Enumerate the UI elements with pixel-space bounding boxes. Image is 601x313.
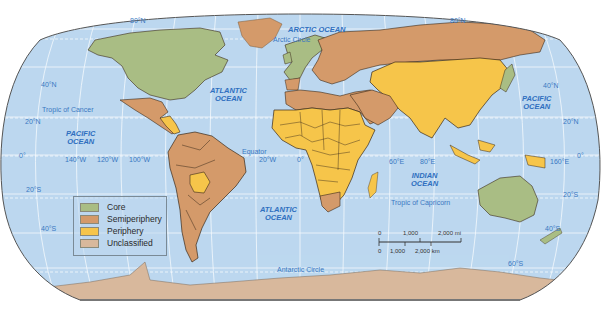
scale-ruler — [375, 238, 485, 246]
lat-0-left: 0° — [19, 152, 26, 159]
atlantic-ocean-north-label: ATLANTICOCEAN — [210, 87, 247, 103]
core-swatch — [80, 203, 99, 212]
scale-mi-end: 2,000 mi — [438, 230, 461, 236]
lat-40n-left: 40°N — [41, 81, 57, 88]
arctic-circle-label: Arctic Circle — [273, 36, 310, 43]
atlantic-ocean-south-label: ATLANTICOCEAN — [260, 206, 297, 222]
lat-80n-left: 80°N — [130, 17, 146, 24]
map-legend: Core Semiperiphery Periphery Unclassifie… — [73, 196, 167, 256]
scale-bar: 0 1,000 2,000 mi 0 1,000 2,000 km — [375, 227, 485, 257]
lat-40s-right: 40°S — [545, 225, 560, 232]
lat-20s-left: 20°S — [26, 186, 41, 193]
semiperiphery-swatch — [80, 215, 99, 224]
scale-km-end: 2,000 km — [415, 248, 440, 254]
lat-80n-right: 80°N — [450, 17, 466, 24]
tropic-capricorn-label: Tropic of Capricorn — [391, 199, 450, 206]
scale-mi-mid: 1,000 — [403, 230, 418, 236]
iberia — [285, 78, 300, 90]
equator-label: Equator — [242, 148, 267, 155]
ocean-line2: OCEAN — [411, 180, 438, 188]
arctic-ocean-text: ARCTIC OCEAN — [288, 25, 346, 34]
legend-item-periphery: Periphery — [80, 226, 143, 236]
lon-100w: 100°W — [129, 156, 150, 163]
lat-20n-right: 20°N — [563, 118, 579, 125]
lon-20w: 20°W — [259, 156, 276, 163]
lon-0: 0° — [297, 156, 304, 163]
ocean-line2: OCEAN — [522, 103, 551, 111]
legend-label: Semiperiphery — [107, 214, 162, 224]
scale-mi-zero: 0 — [378, 230, 381, 236]
legend-label: Core — [107, 202, 125, 212]
lat-0-right: 0° — [577, 152, 584, 159]
legend-label: Unclassified — [107, 238, 153, 248]
pacific-ocean-east-label: PACIFICOCEAN — [522, 95, 551, 111]
lat-60s-right: 60°S — [508, 260, 523, 267]
tropic-cancer-label: Tropic of Cancer — [42, 106, 93, 113]
antarctic-circle-label: Antarctic Circle — [277, 266, 324, 273]
ocean-line2: OCEAN — [66, 138, 95, 146]
ocean-line2: OCEAN — [210, 95, 247, 103]
lon-60e: 60°E — [389, 158, 404, 165]
scale-km-mid: 1,000 — [390, 248, 405, 254]
legend-label: Periphery — [107, 226, 143, 236]
legend-item-core: Core — [80, 202, 125, 212]
lon-160e: 160°E — [550, 158, 569, 165]
unclassified-swatch — [80, 239, 99, 248]
scale-km-zero: 0 — [378, 248, 381, 254]
legend-item-semiperiphery: Semiperiphery — [80, 214, 162, 224]
periphery-swatch — [80, 227, 99, 236]
lat-40n-right: 40°N — [543, 82, 559, 89]
lat-20n-left: 20°N — [25, 118, 41, 125]
lon-120w: 120°W — [97, 156, 118, 163]
lat-40s-left: 40°S — [41, 225, 56, 232]
lon-140w: 140°W — [65, 156, 86, 163]
pacific-ocean-west-label: PACIFICOCEAN — [66, 130, 95, 146]
lat-20s-right: 20°S — [563, 191, 578, 198]
ocean-line2: OCEAN — [260, 214, 297, 222]
arctic-ocean-label: ARCTIC OCEAN — [288, 26, 346, 34]
legend-item-unclassified: Unclassified — [80, 238, 153, 248]
lon-80e: 80°E — [420, 158, 435, 165]
indian-ocean-label: INDIANOCEAN — [411, 172, 438, 188]
